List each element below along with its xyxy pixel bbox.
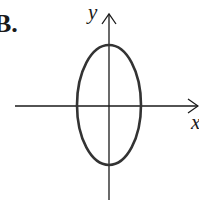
choice-label: B. xyxy=(0,9,18,39)
y-axis-label: y xyxy=(88,0,97,25)
ellipse-diagram: B. y x xyxy=(0,0,199,200)
x-axis-label: x xyxy=(191,110,199,135)
coordinate-plane xyxy=(0,0,199,200)
